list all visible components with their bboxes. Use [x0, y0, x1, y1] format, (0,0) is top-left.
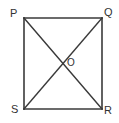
center-point-label-o: O — [67, 58, 75, 68]
diagonals — [24, 18, 102, 109]
vertex-label-r: R — [104, 105, 112, 116]
geometry-figure: P Q R S O — [0, 0, 119, 123]
vertex-label-s: S — [11, 104, 18, 115]
vertex-label-p: P — [10, 8, 17, 19]
vertex-label-q: Q — [104, 7, 113, 18]
